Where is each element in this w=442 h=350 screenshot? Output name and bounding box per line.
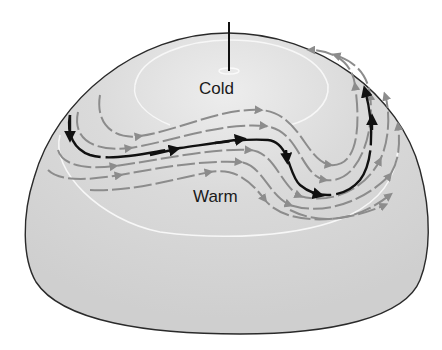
- caption: [80, 340, 380, 350]
- cold-label: Cold: [199, 79, 234, 99]
- hemisphere-diagram: [0, 0, 442, 350]
- warm-label: Warm: [193, 187, 238, 207]
- jet-stream-arrow-dip: [286, 150, 287, 160]
